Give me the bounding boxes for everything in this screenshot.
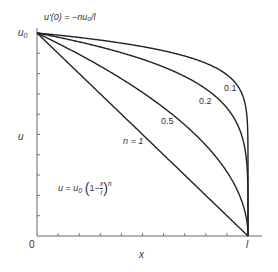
origin-label: 0 bbox=[29, 240, 35, 250]
x-axis-label: x bbox=[139, 250, 144, 260]
curve-label-1: n = 1 bbox=[123, 137, 143, 146]
axes bbox=[37, 28, 262, 236]
curve-label-0.5: 0.5 bbox=[161, 117, 174, 126]
formula: u = u0 (1−xl)n bbox=[58, 180, 112, 197]
curves bbox=[37, 33, 248, 236]
x-end-label: l bbox=[246, 240, 248, 250]
curve-n-1 bbox=[37, 33, 248, 236]
diagram-figure: u0 u'(0) = −nu₀/l u 0 l x 0.1 0.2 0.5 n … bbox=[0, 0, 278, 272]
curve-label-0.1: 0.1 bbox=[224, 84, 237, 93]
curve-label-0.2: 0.2 bbox=[199, 97, 212, 106]
y-axis-label: u bbox=[18, 132, 24, 142]
slope-annotation: u'(0) = −nu₀/l bbox=[44, 13, 96, 22]
u0-label: u0 bbox=[18, 28, 27, 39]
